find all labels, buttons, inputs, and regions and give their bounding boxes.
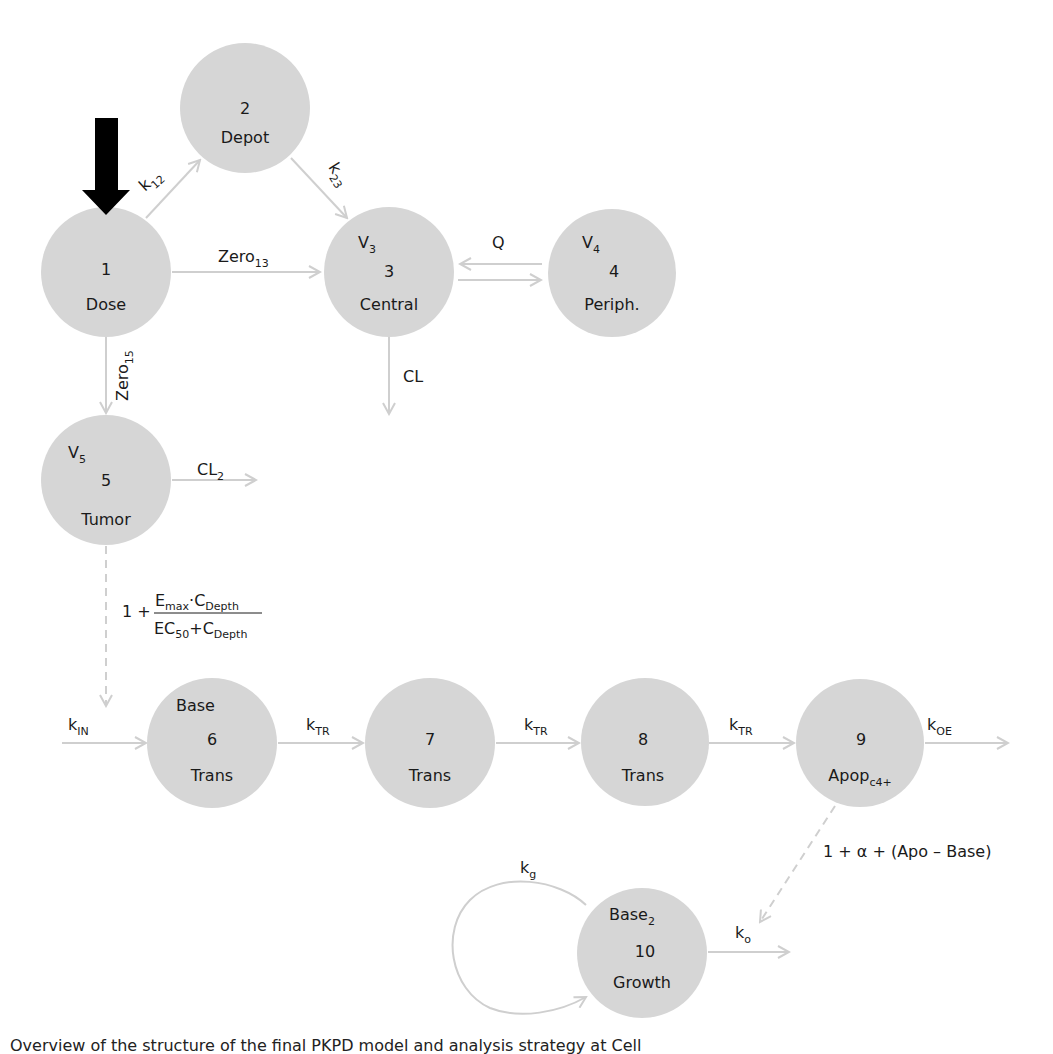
label-k23: k23 (321, 159, 353, 191)
node-3-name: Central (360, 295, 418, 314)
node-2-number: 2 (240, 99, 250, 118)
pkpd-diagram: 1 Dose 2 Depot V3 3 Central V4 4 Periph.… (0, 0, 1053, 1054)
node-9-number: 9 (856, 730, 866, 749)
formula-emax-denominator: EC50+CDepth (154, 619, 247, 641)
label-ktr-7-8: kTR (524, 715, 548, 738)
node-6-number: 6 (207, 730, 217, 749)
node-10-number: 10 (635, 942, 655, 961)
label-zero15: Zero15 (113, 350, 136, 401)
edge-kg-self-loop (453, 881, 586, 1013)
label-k12: k12 (135, 165, 168, 198)
node-labels: 1 Dose 2 Depot V3 3 Central V4 4 Periph.… (68, 99, 892, 992)
edge-labels: k12 k23 Zero13 Q CL Zero15 CL2 kIN kTR k… (68, 159, 952, 946)
edges (62, 158, 1008, 1014)
node-5-number: 5 (101, 471, 111, 490)
label-kg: kg (520, 858, 536, 881)
node-8-name: Trans (621, 766, 664, 785)
node-7-name: Trans (408, 766, 451, 785)
node-8-number: 8 (638, 730, 648, 749)
label-cl: CL (403, 367, 423, 386)
node-7-number: 7 (425, 730, 435, 749)
label-koe: kOE (927, 715, 952, 738)
node-1-name: Dose (86, 295, 126, 314)
node-10-name: Growth (613, 973, 671, 992)
label-ko: ko (735, 923, 751, 946)
effect-apop-ko (760, 806, 835, 922)
formula-emax-numerator: Emax·CDepth (155, 591, 239, 613)
node-3-number: 3 (384, 262, 394, 281)
formula-emax-prefix: 1 + (122, 602, 151, 621)
node-2-name: Depot (221, 128, 269, 147)
label-ktr-6-7: kTR (306, 715, 330, 738)
node-6-name: Trans (190, 766, 233, 785)
node-1-number: 1 (101, 260, 111, 279)
node-5-name: Tumor (80, 510, 131, 529)
label-kin: kIN (68, 715, 89, 738)
formula-apop-effect: 1 + α + (Apo – Base) (823, 842, 991, 861)
dose-arrow-icon (82, 118, 130, 215)
node-4-name: Periph. (584, 295, 639, 314)
formula-emax: 1 + Emax·CDepth EC50+CDepth (122, 591, 262, 641)
label-ktr-8-9: kTR (729, 715, 753, 738)
node-6-top-label: Base (176, 696, 215, 715)
node-4-number: 4 (609, 262, 619, 281)
label-zero13: Zero13 (218, 247, 269, 270)
label-q: Q (492, 233, 505, 252)
figure-caption: Overview of the structure of the final P… (10, 1036, 641, 1054)
